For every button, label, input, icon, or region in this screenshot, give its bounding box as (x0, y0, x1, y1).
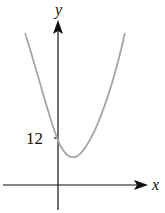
tick-label-12: 12 (26, 129, 43, 148)
parabola-chart: y x 12 (0, 0, 165, 213)
x-axis-label: x (151, 176, 159, 193)
y-axis-label: y (53, 1, 63, 19)
